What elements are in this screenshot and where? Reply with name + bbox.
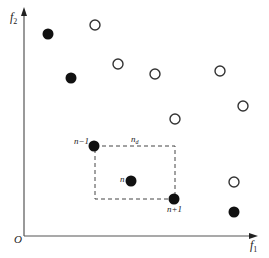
label-n: n xyxy=(120,174,125,184)
filled-points xyxy=(43,29,240,218)
label-distance: nd xyxy=(131,134,140,145)
label-n-minus-1: n−1 xyxy=(74,136,89,146)
y-axis-label: f2 xyxy=(10,10,17,26)
filled-point-icon xyxy=(89,141,100,152)
open-point-icon xyxy=(238,101,248,111)
open-point-icon xyxy=(229,177,239,187)
crowding-distance-diagram: f2 f1 O n−1 n n+1 nd xyxy=(0,0,269,258)
label-n-plus-1: n+1 xyxy=(167,204,182,214)
open-point-icon xyxy=(170,114,180,124)
origin-label: O xyxy=(14,233,22,245)
filled-point-icon xyxy=(169,194,180,205)
open-points xyxy=(90,20,248,187)
open-point-icon xyxy=(215,66,225,76)
axes xyxy=(21,7,258,239)
filled-point-icon xyxy=(126,176,137,187)
y-axis-arrow-icon xyxy=(21,7,27,16)
open-point-icon xyxy=(90,20,100,30)
filled-point-icon xyxy=(229,207,240,218)
x-axis-label: f1 xyxy=(250,238,257,254)
filled-point-icon xyxy=(43,29,54,40)
crowding-cuboid xyxy=(95,146,175,199)
open-point-icon xyxy=(150,69,160,79)
open-point-icon xyxy=(113,59,123,69)
filled-point-icon xyxy=(66,73,77,84)
